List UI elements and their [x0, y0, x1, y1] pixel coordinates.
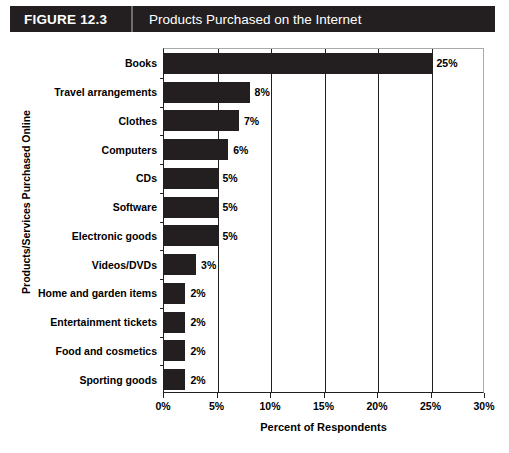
bar-value-label: 2%	[190, 316, 205, 328]
bar	[164, 312, 185, 333]
bar-value-label: 7%	[244, 115, 259, 127]
x-axis-tick	[431, 393, 432, 398]
bar	[164, 168, 218, 189]
y-axis-tick	[160, 250, 164, 251]
bar-row: Travel arrangements8%	[164, 78, 483, 107]
y-axis-tick	[160, 222, 164, 223]
bar	[164, 139, 228, 160]
x-axis-tick-label: 30%	[459, 400, 509, 412]
bar-value-label: 2%	[190, 287, 205, 299]
bar	[164, 110, 239, 131]
y-axis-tick	[160, 135, 164, 136]
bar-row: CDs5%	[164, 164, 483, 193]
category-label: Food and cosmetics	[4, 345, 164, 357]
bar	[164, 82, 250, 103]
x-axis-tick-label: 0%	[138, 400, 188, 412]
x-axis-tick-label: 15%	[299, 400, 349, 412]
x-axis-title: Percent of Respondents	[163, 421, 484, 433]
bar-value-label: 5%	[223, 172, 238, 184]
category-label: Computers	[4, 144, 164, 156]
bar-row: Entertainment tickets2%	[164, 308, 483, 337]
y-axis-tick	[160, 279, 164, 280]
figure-title: Products Purchased on the Internet	[133, 12, 361, 27]
bar	[164, 53, 432, 74]
y-axis-tick	[160, 365, 164, 366]
bar-row: Computers6%	[164, 135, 483, 164]
category-label: Travel arrangements	[4, 86, 164, 98]
x-axis-tick	[484, 393, 485, 398]
bar-value-label: 2%	[190, 374, 205, 386]
category-label: CDs	[4, 172, 164, 184]
bar-row: Food and cosmetics2%	[164, 337, 483, 366]
category-label: Videos/DVDs	[4, 259, 164, 271]
bar-value-label: 8%	[255, 86, 270, 98]
bar-row: Electronic goods5%	[164, 222, 483, 251]
bar	[164, 340, 185, 361]
bar-row: Software5%	[164, 193, 483, 222]
bar	[164, 283, 185, 304]
x-axis-tick-label: 5%	[192, 400, 242, 412]
figure-number: FIGURE 12.3	[10, 12, 131, 27]
bar-chart: Products/Services Purchased Online Books…	[0, 36, 509, 453]
bar-value-label: 5%	[223, 201, 238, 213]
bar-row: Home and garden items2%	[164, 279, 483, 308]
y-axis-tick	[160, 107, 164, 108]
bar-value-label: 2%	[190, 345, 205, 357]
bar-row: Videos/DVDs3%	[164, 250, 483, 279]
y-axis-tick	[160, 337, 164, 338]
category-label: Electronic goods	[4, 230, 164, 242]
x-axis-tick	[270, 393, 271, 398]
x-axis-tick	[163, 393, 164, 398]
y-axis-tick	[160, 193, 164, 194]
category-label: Clothes	[4, 115, 164, 127]
category-label: Software	[4, 201, 164, 213]
figure-header: FIGURE 12.3 Products Purchased on the In…	[10, 6, 495, 32]
x-axis-tick-label: 25%	[406, 400, 456, 412]
bar-row: Clothes7%	[164, 107, 483, 136]
bar-value-label: 5%	[223, 230, 238, 242]
bar	[164, 254, 196, 275]
bar-value-label: 6%	[233, 144, 248, 156]
x-axis-tick	[324, 393, 325, 398]
category-label: Entertainment tickets	[4, 316, 164, 328]
bar-row: Sporting goods2%	[164, 365, 483, 394]
bar-value-label: 3%	[201, 259, 216, 271]
bar	[164, 369, 185, 390]
x-axis-tick	[377, 393, 378, 398]
bar	[164, 225, 218, 246]
plot-area: Books25%Travel arrangements8%Clothes7%Co…	[163, 48, 484, 393]
x-axis-tick-label: 20%	[352, 400, 402, 412]
y-axis-tick	[160, 308, 164, 309]
bar-row: Books25%	[164, 49, 483, 78]
x-axis-tick	[217, 393, 218, 398]
bar-value-label: 25%	[437, 57, 458, 69]
x-axis-tick-label: 10%	[245, 400, 295, 412]
y-axis-tick	[160, 78, 164, 79]
bar	[164, 197, 218, 218]
category-label: Sporting goods	[4, 374, 164, 386]
y-axis-tick	[160, 164, 164, 165]
category-label: Books	[4, 57, 164, 69]
category-label: Home and garden items	[4, 287, 164, 299]
